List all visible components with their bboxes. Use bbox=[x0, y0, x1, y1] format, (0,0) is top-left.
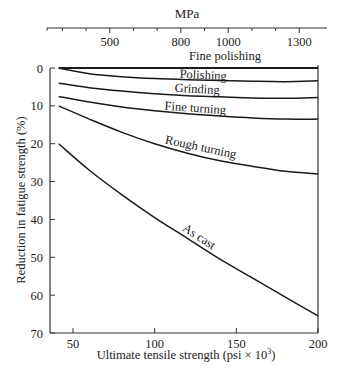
mpa-tick-label: 1000 bbox=[216, 35, 241, 49]
y-tick-label: 40 bbox=[31, 213, 44, 227]
y-tick-label: 60 bbox=[31, 289, 44, 303]
mpa-tick-label: 500 bbox=[100, 35, 119, 49]
label-grinding: Grinding bbox=[174, 81, 221, 97]
label-fine-polishing: Fine polishing bbox=[189, 49, 262, 63]
mpa-tick-label: 800 bbox=[171, 35, 190, 49]
y-tick-label: 70 bbox=[31, 327, 44, 341]
x-tick-label: 200 bbox=[309, 337, 328, 351]
y-axis-title: Reduction in fatigue strength (%) bbox=[14, 116, 28, 283]
top-axis-title: MPa bbox=[175, 6, 200, 21]
y-tick-label: 0 bbox=[37, 62, 43, 76]
y-tick-label: 10 bbox=[31, 99, 44, 113]
y-tick-label: 20 bbox=[31, 137, 44, 151]
x-tick-label: 50 bbox=[67, 337, 80, 351]
fatigue-chart: 0102030405060705010015020050080010001300… bbox=[0, 0, 355, 377]
mpa-tick-label: 1300 bbox=[287, 35, 312, 49]
y-tick-label: 30 bbox=[31, 175, 44, 189]
x-axis-title: Ultimate tensile strength (psi × 103) bbox=[97, 347, 276, 362]
label-fine-turning: Fine turning bbox=[164, 99, 227, 117]
y-tick-label: 50 bbox=[31, 251, 44, 265]
